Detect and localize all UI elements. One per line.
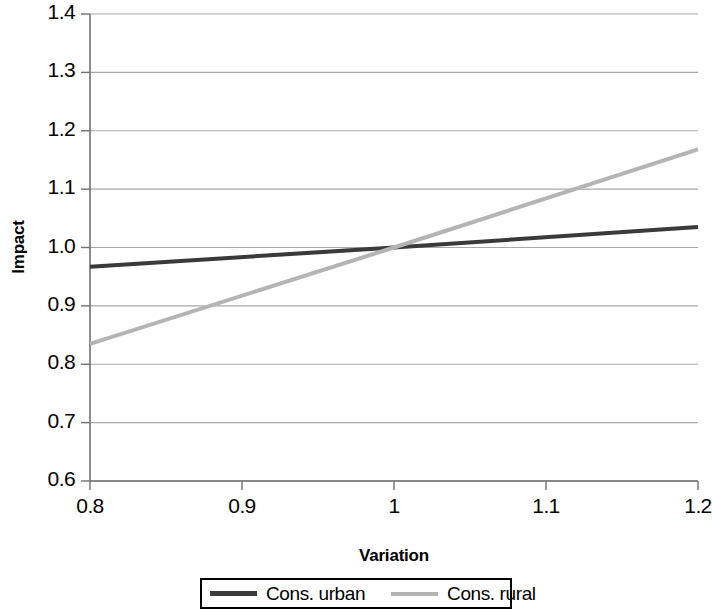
legend-item-cons-urban: Cons. urban xyxy=(210,580,365,607)
y-tick-label: 0.9 xyxy=(11,292,75,316)
x-axis-title: Variation xyxy=(90,546,698,566)
y-tick-label: 1.2 xyxy=(11,117,75,141)
y-tick-label: 0.8 xyxy=(11,350,75,374)
legend-item-cons-rural: Cons. rural xyxy=(391,580,536,607)
chart-container: Impact Variation 0.60.70.80.91.01.11.21.… xyxy=(0,0,712,609)
x-tick-label: 0.8 xyxy=(50,494,130,518)
data-series-group xyxy=(90,149,698,343)
x-tick-label: 1.1 xyxy=(506,494,586,518)
legend-swatch-icon-cons-urban xyxy=(210,591,257,596)
x-tick-label: 1.2 xyxy=(658,494,712,518)
y-tick-label: 1.1 xyxy=(11,175,75,199)
y-tick-label: 1.4 xyxy=(11,0,75,24)
chart-legend: Cons. urban Cons. rural xyxy=(200,578,512,609)
x-tick-label: 1 xyxy=(354,494,434,518)
legend-swatch-icon-cons-rural xyxy=(391,592,438,596)
y-tick-label: 1.3 xyxy=(11,58,75,82)
y-tick-label: 1.0 xyxy=(11,234,75,258)
x-tick-label: 0.9 xyxy=(202,494,282,518)
y-tick-label: 0.6 xyxy=(11,467,75,491)
legend-label-cons-urban: Cons. urban xyxy=(266,583,365,605)
y-tick-label: 0.7 xyxy=(11,409,75,433)
axis-ticks xyxy=(81,14,698,490)
legend-label-cons-rural: Cons. rural xyxy=(447,583,536,605)
